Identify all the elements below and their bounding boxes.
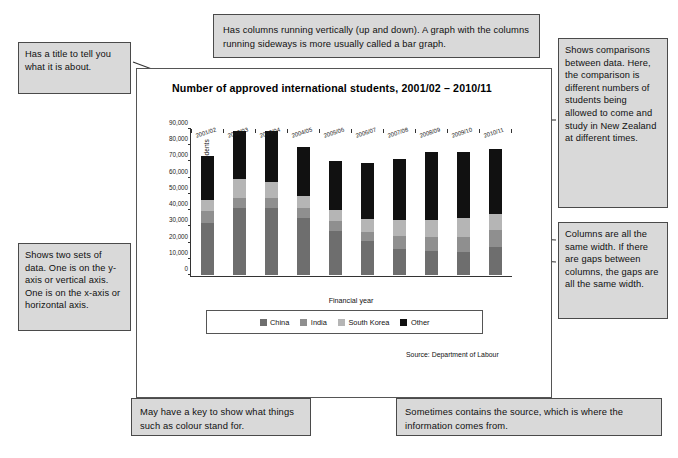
legend-item-china[interactable]: China	[260, 318, 290, 327]
y-axis-tick-label: 80,000	[169, 135, 188, 142]
x-axis-line	[190, 276, 512, 277]
bar-segment-china	[265, 208, 278, 275]
x-axis-tick-label: 2008/09	[419, 127, 441, 139]
bar-segment-other	[265, 131, 278, 182]
x-axis-tick-mark	[223, 129, 224, 133]
x-axis-tick-mark	[319, 129, 320, 133]
y-axis-tick-label: 20,000	[169, 232, 188, 239]
bar-segment-china	[425, 251, 438, 275]
y-axis-tick-mark	[188, 160, 192, 161]
bar-segment-india	[265, 198, 278, 208]
bar-segment-other	[457, 152, 470, 219]
x-axis-tick-label: 2006/07	[355, 127, 377, 139]
callout-axes-note-text: Shows two sets of data. One is on the y-…	[25, 250, 120, 310]
x-axis-tick-mark	[479, 129, 480, 133]
legend-swatch-icon	[400, 319, 407, 326]
bar-segment-india	[457, 237, 470, 252]
y-axis-tick-label: 40,000	[169, 200, 188, 207]
bar-segment-south-korea	[329, 210, 342, 221]
bar-segment-south-korea	[297, 196, 310, 207]
y-axis-tick-label: 0	[185, 265, 188, 272]
callout-source-note: Sometimes contains the source, which is …	[396, 398, 662, 436]
x-axis-tick-mark	[255, 129, 256, 133]
x-axis-tick-mark	[287, 129, 288, 133]
legend-item-other[interactable]: Other	[400, 318, 429, 327]
y-axis-tick-mark	[188, 225, 192, 226]
bar-segment-south-korea	[233, 179, 246, 198]
bar-segment-other	[489, 149, 502, 214]
callout-width-note-text: Columns are all the same width. If there…	[565, 229, 659, 289]
plot-area: 010,00020,00030,00040,00050,00060,00070,…	[191, 129, 511, 275]
y-axis-tick-label: 30,000	[169, 216, 188, 223]
callout-columns-note-text: Has columns running vertically (up and d…	[223, 24, 529, 49]
bar-column	[233, 131, 246, 275]
callout-columns-note: Has columns running vertically (up and d…	[213, 14, 540, 58]
bar-column	[201, 156, 214, 275]
legend-item-label: South Korea	[348, 318, 389, 327]
bar-segment-south-korea	[457, 218, 470, 237]
bar-segment-china	[329, 231, 342, 275]
y-axis-tick-label: 10,000	[169, 248, 188, 255]
bar-segment-china	[297, 218, 310, 275]
x-axis-tick-mark	[511, 129, 512, 133]
bar-segment-south-korea	[393, 220, 406, 236]
bar-segment-china	[393, 249, 406, 275]
bar-column	[393, 159, 406, 275]
bar-segment-china	[489, 247, 502, 275]
bar-column	[329, 161, 342, 275]
bar-column	[265, 131, 278, 275]
source-caption: Source: Department of Labour	[406, 351, 499, 358]
y-axis-tick-label: 70,000	[169, 151, 188, 158]
bar-segment-south-korea	[489, 214, 502, 230]
bar-segment-china	[201, 223, 214, 275]
legend-swatch-icon	[260, 319, 267, 326]
y-axis-tick-mark	[188, 177, 192, 178]
bar-column	[489, 149, 502, 275]
legend-swatch-icon	[300, 319, 307, 326]
x-axis-tick-label: 2009/10	[451, 127, 473, 139]
bar-segment-other	[297, 147, 310, 196]
y-axis-tick-mark	[188, 193, 192, 194]
bar-segment-south-korea	[201, 200, 214, 211]
legend-item-label: China	[270, 318, 289, 327]
legend-item-india[interactable]: India	[300, 318, 327, 327]
callout-key-note: May have a key to show what things such …	[131, 398, 311, 436]
callout-axes-note: Shows two sets of data. One is on the y-…	[18, 243, 131, 331]
bar-segment-india	[425, 237, 438, 252]
worksheet-page: Has a title to tell you what it is about…	[0, 0, 678, 458]
x-axis-tick-mark	[415, 129, 416, 133]
bar-segment-india	[297, 208, 310, 219]
bar-segment-south-korea	[265, 182, 278, 198]
bar-segment-china	[457, 252, 470, 275]
legend-item-label: India	[311, 318, 327, 327]
bar-segment-other	[361, 163, 374, 219]
bar-segment-other	[393, 159, 406, 220]
legend-swatch-icon	[338, 319, 345, 326]
y-axis-tick-mark	[188, 144, 192, 145]
x-axis-tick-mark	[351, 129, 352, 133]
legend-item-label: Other	[411, 318, 429, 327]
callout-source-note-text: Sometimes contains the source, which is …	[405, 406, 623, 431]
x-axis-tick-mark	[447, 129, 448, 133]
x-axis-tick-label: 2004/05	[291, 127, 313, 139]
y-axis-tick-label: 60,000	[169, 167, 188, 174]
x-axis-tick-label: 2010/11	[483, 127, 504, 139]
bar-column	[425, 152, 438, 275]
bar-segment-india	[201, 211, 214, 223]
x-axis-tick-label: 2007/08	[387, 127, 409, 139]
callout-title-note: Has a title to tell you what it is about…	[18, 42, 131, 94]
x-axis-tick-mark	[383, 129, 384, 133]
callout-compare-note: Shows comparisons between data. Here, th…	[558, 38, 668, 208]
bar-segment-other	[425, 152, 438, 220]
bar-segment-india	[329, 221, 342, 231]
bar-segment-india	[489, 230, 502, 247]
bar-segment-other	[329, 161, 342, 210]
chart-title: Number of approved international student…	[172, 82, 492, 94]
bar-segment-india	[361, 232, 374, 241]
bar-column	[297, 147, 310, 275]
bar-segment-south-korea	[425, 220, 438, 237]
callout-width-note: Columns are all the same width. If there…	[558, 222, 668, 319]
bar-column	[457, 152, 470, 275]
legend-item-south-korea[interactable]: South Korea	[338, 318, 390, 327]
bar-segment-india	[233, 198, 246, 208]
